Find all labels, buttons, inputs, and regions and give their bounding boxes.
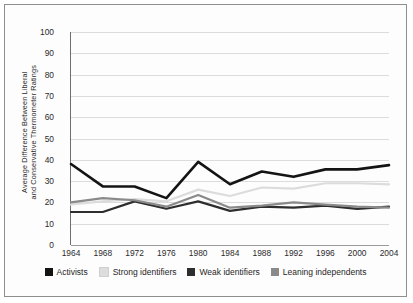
figure-frame: Average Difference Between Liberal and C…: [4, 4, 407, 297]
y-tick-label-60: 60: [28, 112, 54, 122]
y-tick-label-90: 90: [28, 48, 54, 58]
legend-item-weak-identifiers[interactable]: Weak identifiers: [187, 267, 259, 277]
series-line-activists: [71, 162, 389, 198]
series-lines: [71, 32, 389, 245]
plot-area: [71, 32, 389, 245]
chart-legend: ActivistsStrong identifiersWeak identifi…: [5, 267, 406, 277]
y-tick-label-40: 40: [28, 155, 54, 165]
y-tick-label-10: 10: [28, 219, 54, 229]
legend-item-leaning-independents[interactable]: Leaning independents: [271, 267, 367, 277]
y-tick-label-70: 70: [28, 91, 54, 101]
y-tick-label-30: 30: [28, 176, 54, 186]
legend-swatch-icon: [99, 267, 109, 277]
x-tick-label-2004: 2004: [367, 248, 411, 258]
legend-item-strong-identifiers[interactable]: Strong identifiers: [99, 267, 177, 277]
legend-swatch-icon: [271, 268, 279, 276]
legend-label: Strong identifiers: [113, 267, 177, 277]
figure-canvas: Average Difference Between Liberal and C…: [5, 5, 406, 296]
y-tick-label-100: 100: [28, 27, 54, 37]
legend-label: Leaning independents: [283, 267, 367, 277]
legend-swatch-icon: [187, 268, 195, 276]
legend-label: Weak identifiers: [199, 267, 259, 277]
gridline-0: [71, 245, 389, 246]
legend-label: Activists: [57, 267, 88, 277]
y-tick-label-50: 50: [28, 134, 54, 144]
y-tick-label-20: 20: [28, 197, 54, 207]
y-tick-label-80: 80: [28, 70, 54, 80]
legend-item-activists[interactable]: Activists: [45, 267, 88, 277]
legend-swatch-icon: [45, 268, 53, 276]
